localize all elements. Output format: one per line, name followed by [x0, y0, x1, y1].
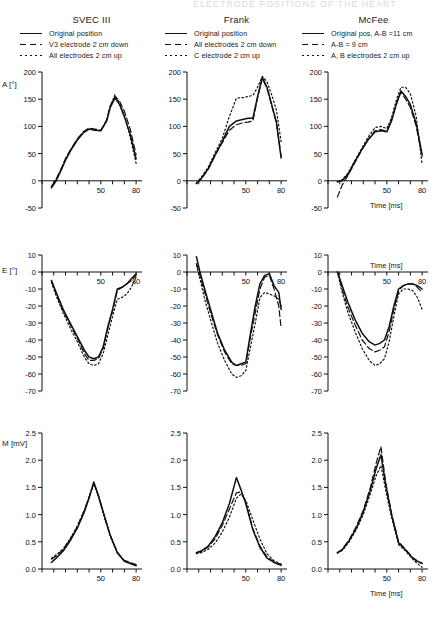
y-tick-label: -30 [25, 319, 36, 328]
plot-area: 0.00.51.01.52.02.55080 [298, 423, 434, 595]
y-tick-label: 0 [32, 268, 36, 277]
x-tick-label: 80 [132, 186, 140, 195]
y-tick-label: -60 [25, 370, 36, 379]
y-tick-label: 150 [168, 95, 181, 104]
legend-entry-label: C electrode 2 cm up [194, 51, 260, 60]
series-line-dashed [196, 492, 281, 565]
y-tick-label: -40 [25, 336, 36, 345]
y-tick-label: -50 [311, 353, 322, 362]
plot-area: 0.00.51.01.52.02.55080 [12, 423, 148, 595]
legend-entry: All electrodes 2 cm up [18, 50, 165, 60]
y-axis-label: A [°] [2, 80, 17, 89]
y-tick-label: 10 [28, 251, 36, 260]
y-tick-label: 2.0 [26, 456, 36, 465]
y-tick-label: 2.5 [26, 429, 36, 438]
series-line-dashed [337, 92, 422, 197]
legend-svec3: SVEC III Original position V3 electrode … [18, 14, 165, 61]
y-tick-label: 100 [309, 122, 322, 131]
line-style-dashed-icon [163, 40, 189, 49]
y-tick-label: 1.5 [312, 483, 322, 492]
series-line-dotted [337, 272, 422, 366]
legend-entry: C electrode 2 cm up [163, 50, 310, 60]
y-tick-label: 0.5 [171, 538, 181, 547]
x-tick-label: 80 [277, 186, 285, 195]
y-tick-label: 0 [32, 177, 36, 186]
plot-area: -500501001502005080 [298, 62, 434, 234]
y-tick-label: 0 [177, 177, 181, 186]
x-tick-label: 50 [242, 186, 250, 195]
chart-mcfee-magnitude: 0.00.51.01.52.02.55080Time [ms] [298, 423, 434, 595]
series-line-solid [51, 482, 136, 566]
x-tick-label: 50 [242, 277, 250, 286]
legend-title: McFee [300, 14, 447, 25]
y-tick-label: 2.5 [312, 429, 322, 438]
series-line-dashed [337, 272, 422, 352]
y-tick-label: -50 [170, 204, 181, 213]
y-tick-label: -50 [311, 204, 322, 213]
series-line-dotted [51, 484, 136, 566]
x-axis-label: Time [ms] [370, 201, 403, 210]
y-tick-label: -20 [25, 302, 36, 311]
y-tick-label: -70 [170, 387, 181, 396]
y-tick-label: 50 [28, 150, 36, 159]
plot-area: -500501001502005080 [157, 62, 293, 234]
legend-entry-label: Original pos, A-B =11 cm [331, 29, 413, 38]
legend-title: SVEC III [18, 14, 165, 25]
y-tick-label: -60 [170, 370, 181, 379]
y-tick-label: 1.0 [26, 511, 36, 520]
legend-entry: Original pos, A-B =11 cm [300, 28, 447, 38]
y-tick-label: -50 [170, 353, 181, 362]
chart-frank-elevation: 100-10-20-30-40-50-60-705080 [157, 245, 293, 417]
legend-entry-label: All electrodes 2 cm up [49, 51, 122, 60]
y-tick-label: 0.0 [171, 565, 181, 574]
legend-entry-label: Original position [194, 29, 247, 38]
line-style-dotted-icon [18, 51, 44, 60]
legend-entry-label: All electrodes 2 cm down [194, 40, 276, 49]
y-tick-label: -30 [170, 319, 181, 328]
line-style-dotted-icon [300, 51, 326, 60]
y-tick-label: 1.5 [26, 483, 36, 492]
line-style-dotted-icon [163, 51, 189, 60]
legend-entry: A-B = 9 cm [300, 39, 447, 49]
y-tick-label: -40 [170, 336, 181, 345]
plot-area: 100-10-20-30-40-50-60-705080 [12, 245, 148, 417]
series-line-solid [196, 257, 281, 366]
x-tick-label: 80 [418, 277, 426, 286]
chart-mcfee-elevation: 100-10-20-30-40-50-60-705080Time [ms] [298, 245, 434, 417]
x-tick-label: 50 [242, 574, 250, 583]
y-tick-label: 150 [23, 95, 36, 104]
series-line-dotted [196, 265, 281, 377]
y-tick-label: 200 [23, 68, 36, 77]
series-line-dashed [51, 96, 136, 186]
y-tick-label: -10 [170, 285, 181, 294]
y-tick-label: 2.0 [312, 456, 322, 465]
y-tick-label: 200 [309, 68, 322, 77]
y-tick-label: 100 [168, 122, 181, 131]
series-line-dashed [337, 447, 422, 563]
legend-entry: All electrodes 2 cm down [163, 39, 310, 49]
y-tick-label: 100 [23, 122, 36, 131]
y-axis-label: E [°] [2, 266, 17, 275]
legend-entry-label: A, B electrodes 2 cm up [331, 51, 410, 60]
page-header-faint: ELECTRODE POSITIONS OF THE HEART [150, 0, 440, 10]
legend-entry: Original position [163, 28, 310, 38]
x-tick-label: 50 [97, 574, 105, 583]
legend-frank: Frank Original position All electrodes 2… [163, 14, 310, 61]
x-tick-label: 80 [132, 574, 140, 583]
series-line-solid [196, 478, 281, 566]
x-axis-label: Time [ms] [370, 261, 403, 270]
series-line-dashed [196, 79, 281, 184]
chart-svec-azimuth: -500501001502005080A [°] [12, 62, 148, 234]
y-tick-label: -40 [311, 336, 322, 345]
legend-title: Frank [163, 14, 310, 25]
series-line-dotted [337, 87, 422, 182]
y-tick-label: -50 [25, 353, 36, 362]
y-tick-label: -10 [311, 285, 322, 294]
y-tick-label: -70 [311, 387, 322, 396]
legend-entry-label: Original position [49, 29, 102, 38]
series-line-dotted [196, 494, 281, 564]
series-line-dotted [51, 277, 136, 365]
y-tick-label: -10 [25, 285, 36, 294]
y-tick-label: 1.5 [171, 483, 181, 492]
y-tick-label: 0.5 [26, 538, 36, 547]
